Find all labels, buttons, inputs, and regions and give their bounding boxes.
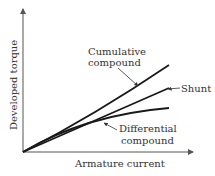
y-axis-label: Developed torque (8, 40, 19, 130)
shunt-leader (168, 88, 180, 89)
torque-current-diagram: Cumulative compound Shunt Differential c… (0, 0, 215, 176)
shunt-label: Shunt (181, 83, 211, 94)
differential-leader (104, 123, 117, 130)
cumulative-label-line2: compound (88, 57, 141, 68)
cumulative-leader (118, 68, 138, 86)
x-axis-label: Armature current (74, 158, 165, 169)
differential-label-line1: Differential (119, 123, 177, 134)
differential-label-line2: compound (121, 135, 174, 146)
cumulative-label-line1: Cumulative (88, 46, 146, 57)
